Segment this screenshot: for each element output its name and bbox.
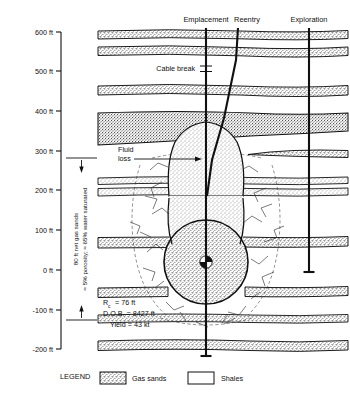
axis-tick-label-100: 100 ft <box>35 226 53 235</box>
legend-label-shales: Shales <box>221 374 243 383</box>
axis-tick-label-neg100: -100 ft <box>33 306 53 315</box>
axis-tick-label-400: 400 ft <box>35 107 53 116</box>
bracket-label-line2: ≈ 5% porosity; ≈ 65% water saturated <box>81 187 88 290</box>
well-label-emplacement: Emplacement <box>183 15 228 24</box>
legend-swatch-shales <box>188 372 214 384</box>
axis-tick-label-0: 0 ft <box>43 266 53 275</box>
axis-tick-label-200: 200 ft <box>35 186 53 195</box>
axis-tick-label-300: 300 ft <box>35 147 53 156</box>
axis-tick-label-600: 600 ft <box>35 28 53 37</box>
cavity-radius-value: = 76 ft <box>115 298 135 307</box>
bracket-label-line1: 80 ft net gas sands <box>72 213 79 265</box>
cable-break-label: Cable break <box>156 64 195 73</box>
well-label-exploration: Exploration <box>291 15 328 24</box>
fluid-loss-label-line1: Fluid <box>118 145 134 154</box>
legend-swatch-gas-sands <box>100 372 126 384</box>
legend-title: LEGEND <box>60 372 90 381</box>
cross-section-svg: 600 ft 500 ft 400 ft 300 ft 200 ft 100 f… <box>0 0 350 407</box>
axis-tick-label-neg200: -200 ft <box>33 345 53 354</box>
cross-section-figure: 600 ft 500 ft 400 ft 300 ft 200 ft 100 f… <box>0 0 350 407</box>
axis-tick-label-500: 500 ft <box>35 67 53 76</box>
legend-label-gas-sands: Gas sands <box>132 374 167 383</box>
fluid-loss-label-line2: loss <box>118 154 131 163</box>
well-label-reentry: Reentry <box>234 15 260 24</box>
yield-label: Yield = 43 kt <box>110 320 150 329</box>
gas-sand-bed <box>98 340 348 352</box>
depth-of-burial-label: D.O.B. = 8427 ft <box>103 309 155 318</box>
